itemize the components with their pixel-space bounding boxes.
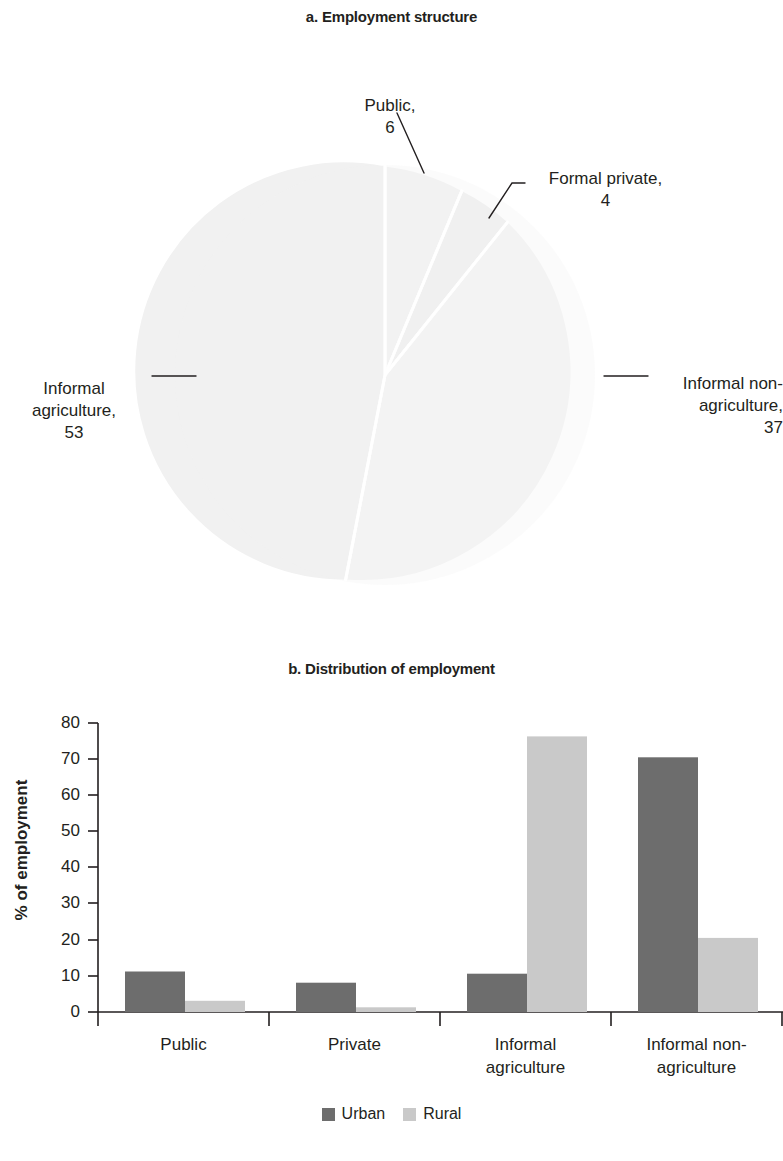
y-tick-label-20: 20 [32, 930, 80, 950]
bar-informal-non-agriculture-urban [638, 757, 698, 1012]
legend-swatch-rural-icon [403, 1108, 416, 1121]
pie-label-informal-agriculture: Informal agriculture, 53 [0, 378, 148, 444]
bar-chart-svg [0, 690, 783, 1161]
y-tick-label-40: 40 [32, 857, 80, 877]
y-tick-label-50: 50 [32, 821, 80, 841]
x-category-label-informal-non-agriculture: Informal non- agriculture [611, 1033, 782, 1079]
y-tick-label-60: 60 [32, 785, 80, 805]
legend-label-rural: Rural [423, 1105, 461, 1123]
x-category-label-informal-agriculture: Informal agriculture [440, 1033, 611, 1079]
bar-informal-non-agriculture-rural [698, 938, 758, 1012]
panel-a-title: a. Employment structure [0, 8, 783, 25]
y-tick-label-0: 0 [32, 1002, 80, 1022]
legend-item-urban: Urban [322, 1105, 386, 1123]
bar-public-urban [125, 972, 185, 1013]
bar-informal-agriculture-urban [467, 974, 527, 1012]
y-tick-label-70: 70 [32, 749, 80, 769]
pie-label-formal-private: Formal private, 4 [518, 168, 693, 212]
pie-label-informal-non-agriculture: Informal non- agriculture, 37 [648, 373, 783, 439]
bar-public-rural [185, 1001, 245, 1012]
legend-label-urban: Urban [342, 1105, 386, 1123]
y-tick-label-10: 10 [32, 966, 80, 986]
y-tick-label-30: 30 [32, 893, 80, 913]
y-tick-label-80: 80 [32, 713, 80, 733]
pie-label-public: Public, 6 [330, 95, 450, 139]
bar-chart-panel: % of employment [0, 690, 783, 1161]
bar-chart-bars [125, 736, 758, 1012]
legend-swatch-urban-icon [322, 1108, 335, 1121]
panel-b-title: b. Distribution of employment [0, 660, 783, 677]
x-category-label-public: Public [98, 1033, 269, 1056]
x-category-label-private: Private [269, 1033, 440, 1056]
bar-chart-legend: Urban Rural [0, 1105, 783, 1123]
bar-private-urban [296, 983, 356, 1012]
pie-chart-panel: Public, 6 Formal private, 4 Informal agr… [0, 40, 783, 640]
bar-informal-agriculture-rural [527, 736, 587, 1012]
bar-private-rural [356, 1007, 416, 1012]
legend-item-rural: Rural [403, 1105, 461, 1123]
